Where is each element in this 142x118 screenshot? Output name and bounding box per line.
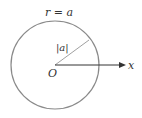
x-axis-label: x xyxy=(128,59,135,72)
circle-equation-label: r = a xyxy=(45,6,73,19)
radius-label: |a| xyxy=(56,42,69,54)
origin-label: O xyxy=(48,67,57,80)
x-axis-arrowhead-icon xyxy=(119,62,126,68)
polar-circle-diagram: r = a |a| O x xyxy=(0,0,142,118)
